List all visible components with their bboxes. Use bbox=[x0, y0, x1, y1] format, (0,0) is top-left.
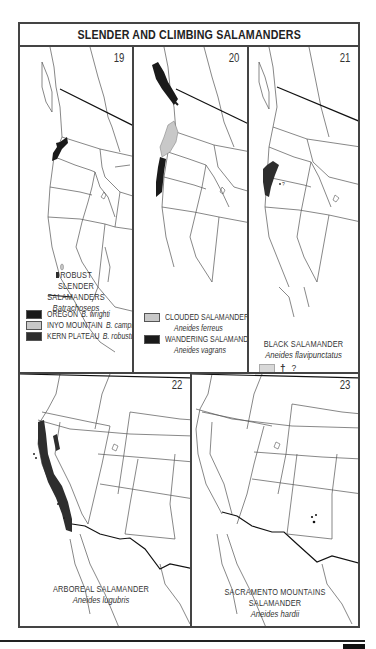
legend-item-oregon: OREGONB. wrighti bbox=[26, 309, 134, 320]
species-name: BLACK SALAMANDER bbox=[259, 339, 348, 350]
map-23-caption: SACRAMENTO MOUNTAINS SALAMANDER Aneides … bbox=[192, 587, 358, 620]
map-21-caption: BLACK SALAMANDER Aneides flavipunctatus bbox=[249, 339, 358, 361]
species-scientific: Aneides flavipunctatus bbox=[257, 350, 350, 361]
figure-title-bar: SLENDER AND CLIMBING SALAMANDERS bbox=[18, 22, 360, 47]
map-panel-22: 22 ARBOREAL SALAMANDER Aneides lugubris bbox=[18, 372, 192, 628]
legend-item-wandering: WANDERING SALAMANDER bbox=[144, 334, 249, 345]
species-scientific: Aneides hardii bbox=[204, 609, 345, 620]
species-name: ARBOREAL SALAMANDER bbox=[28, 584, 174, 595]
map-number: 23 bbox=[339, 378, 350, 392]
legend-swatch bbox=[144, 313, 160, 322]
range-oregon-slender bbox=[52, 137, 68, 161]
legend-item-clouded: CLOUDED SALAMANDER bbox=[144, 312, 249, 323]
canada-border bbox=[176, 89, 249, 125]
legend-swatch bbox=[26, 332, 42, 341]
range-wandering-vancouver bbox=[152, 62, 178, 105]
range-clouded-salamander bbox=[160, 121, 178, 157]
map-number: 21 bbox=[339, 51, 350, 65]
map-19-legend: OREGONB. wrighti INYO MOUNTAINB. campi K… bbox=[26, 309, 134, 342]
map-number: 20 bbox=[228, 51, 239, 65]
map-22-caption: ARBOREAL SALAMANDER Aneides lugubris bbox=[18, 584, 190, 606]
svg-text:?: ? bbox=[282, 181, 285, 187]
map-number: 19 bbox=[113, 51, 124, 65]
legend-swatch bbox=[26, 310, 42, 319]
legend-item-inyo-mountain: INYO MOUNTAINB. campi bbox=[26, 320, 134, 331]
map-panel-20: 20 CLOUDED SALAMANDER Aneides ferreus WA… bbox=[132, 45, 249, 374]
map-20-legend: CLOUDED SALAMANDER Aneides ferreus WANDE… bbox=[144, 312, 249, 356]
species-name: SACRAMENTO MOUNTAINS SALAMANDER bbox=[207, 587, 343, 609]
caption-line-2: SLENDER SALAMANDERS bbox=[30, 281, 122, 303]
page-bottom-rule bbox=[0, 640, 365, 642]
mexico-border bbox=[222, 512, 360, 564]
legend-swatch bbox=[26, 321, 42, 330]
canada-border bbox=[60, 89, 134, 127]
species-scientific: Aneides lugubris bbox=[25, 595, 176, 606]
caption-line-1: ROBUST bbox=[30, 270, 122, 281]
legend-item-kern-plateau: KERN PLATEAUB. robustus bbox=[26, 331, 134, 342]
page-corner-block bbox=[343, 644, 365, 649]
map-panel-23: 23 SACRAMENTO MOUNTAINS SALAMANDER Aneid… bbox=[190, 372, 360, 628]
map-panel-19: 19 ROBUST SLENDER SALAMANDERS Batrachose… bbox=[18, 45, 134, 374]
map-number: 22 bbox=[171, 378, 182, 392]
legend-swatch bbox=[144, 335, 160, 344]
map-21-outline: ? bbox=[249, 47, 360, 374]
range-sacramento-mountains bbox=[311, 516, 313, 518]
canada-border bbox=[277, 87, 360, 122]
figure-title: SLENDER AND CLIMBING SALAMANDERS bbox=[77, 27, 300, 42]
map-panel-21: ? 21 BLACK SALAMANDER Aneides flavipunct… bbox=[247, 45, 360, 374]
map-19-caption: ROBUST SLENDER SALAMANDERS Batrachoseps bbox=[20, 270, 132, 314]
